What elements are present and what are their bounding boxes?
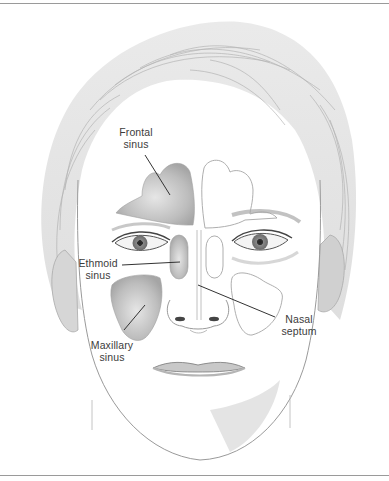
- maxillary-sinus-right-outline: [231, 273, 282, 335]
- maxillary-sinus-left: [111, 275, 162, 341]
- nose: [167, 300, 228, 333]
- frontal-sinus-left: [116, 163, 194, 225]
- frontal-sinus-label: Frontal sinus: [113, 126, 159, 150]
- face-illustration: [0, 0, 389, 481]
- ethmoid-sinus-left: [170, 235, 188, 279]
- nasal-septum: [197, 230, 201, 320]
- right-eye: [232, 230, 298, 263]
- mouth: [153, 362, 245, 375]
- maxillary-sinus-label: Maxillary sinus: [84, 339, 140, 363]
- figure-frame: Frontal sinus Ethmoid sinus Maxillary si…: [0, 0, 389, 481]
- ethmoid-sinus-right-outline: [206, 236, 223, 278]
- left-eyebrow: [112, 224, 170, 230]
- ethmoid-sinus-label: Ethmoid sinus: [74, 257, 122, 281]
- left-eye: [112, 232, 170, 251]
- nasal-septum-label: Nasal septum: [278, 313, 320, 337]
- frontal-sinus-right-outline: [202, 160, 277, 228]
- septum-leader-line: [198, 285, 275, 317]
